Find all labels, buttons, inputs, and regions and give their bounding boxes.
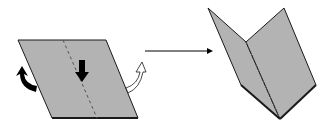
- flat-sheet-paper: [18, 40, 138, 118]
- folded-sheet: [208, 8, 316, 119]
- folding-diagram: [0, 0, 327, 128]
- flat-sheet: [16, 40, 146, 118]
- transition-arrow: [145, 48, 213, 54]
- curved-arrow-right-icon: [126, 62, 146, 93]
- right-arrow-head-icon: [207, 48, 213, 54]
- folded-sheet-right-panel: [246, 8, 316, 119]
